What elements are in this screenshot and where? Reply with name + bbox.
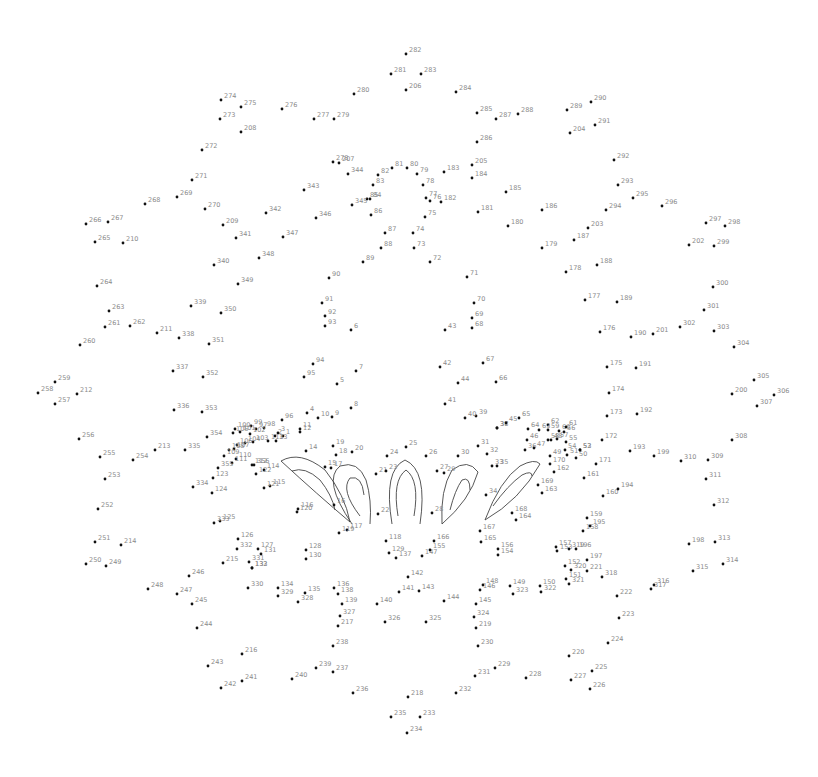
dot-202: 202 [688,237,705,246]
dot-336: 336 [173,402,190,411]
dot-marker [661,205,664,208]
dot-number-label: 198 [692,536,704,544]
dot-number-label: 9 [335,409,339,417]
dot-294: 294 [605,202,622,211]
dot-number-label: 289 [570,102,582,110]
dot-marker [384,621,387,624]
dot-marker [586,517,589,520]
dot-296: 296 [661,198,678,207]
dot-number-label: 186 [545,202,557,210]
dot-marker [407,576,410,579]
dot-283: 283 [420,66,437,75]
dot-34: 34 [485,487,498,496]
dot-marker [617,488,620,491]
dot-marker [431,512,434,515]
dot-288: 288 [517,106,534,115]
dot-227: 227 [570,672,587,681]
dot-54: 54 [564,442,577,451]
dot-number-label: 238 [336,638,348,646]
dot-number-label: 243 [211,658,223,666]
dot-number-label: 73 [417,240,425,248]
dot-marker [305,450,308,453]
dot-marker [473,616,476,619]
dot-marker [96,285,99,288]
dot-289: 289 [566,102,583,111]
dot-113: 113 [267,433,284,442]
dot-number-label: 69 [475,310,483,318]
dot-number-label: 217 [341,618,353,626]
dot-number-label: 273 [223,111,235,119]
dot-190: 190 [630,329,647,338]
dot-number-label: 195 [593,518,605,526]
dot-marker [475,627,478,630]
dot-number-label: 77 [429,190,437,198]
dot-number-label: 323 [516,586,528,594]
dot-marker [105,565,108,568]
dot-77: 77 [425,190,438,199]
dot-276: 276 [281,101,298,110]
dot-295: 295 [632,190,649,199]
dot-marker [324,315,327,318]
dot-number-label: 208 [244,124,256,132]
dot-number-label: 301 [707,302,719,310]
dot-marker [444,329,447,332]
dot-number-label: 171 [599,456,611,464]
dot-74: 74 [412,225,425,234]
dot-marker [341,603,344,606]
dot-208: 208 [240,124,257,133]
dot-marker [241,653,244,656]
dot-marker [429,261,432,264]
dot-291: 291 [594,117,611,126]
dot-marker [586,559,589,562]
dot-marker [494,667,497,670]
dot-140: 140 [376,596,393,605]
dot-number-label: 241 [245,673,257,681]
dot-marker [306,412,309,415]
dot-number-label: 142 [411,569,423,577]
dot-number-label: 353 [205,404,217,412]
dot-marker [419,716,422,719]
dot-marker [712,286,715,289]
dot-marker [277,595,280,598]
dot-number-label: 4 [310,405,314,413]
dot-237: 237 [332,664,349,673]
dot-marker [505,422,508,425]
dot-marker [332,645,335,648]
dot-marker [213,522,216,525]
dot-marker [388,552,391,555]
dot-marker [122,242,125,245]
dot-marker [222,562,225,565]
dot-70: 70 [473,295,486,304]
dot-marker [617,184,620,187]
dot-number-label: 261 [108,319,120,327]
dot-to-dot-canvas: 1234567891011121314151617181920212223242… [0,0,818,777]
dot-number-label: 124 [215,485,227,493]
dot-marker [281,419,284,422]
dot-number-label: 218 [411,689,423,697]
dot-83: 83 [372,177,385,186]
dot-marker [433,540,436,543]
dot-number-label: 191 [639,360,651,368]
dot-number-label: 178 [569,264,581,272]
dot-marker [79,344,82,347]
dot-marker [156,332,159,335]
dot-marker [235,237,238,240]
dot-number-label: 95 [307,369,315,377]
dot-number-label: 222 [620,588,632,596]
dot-31: 31 [477,438,490,447]
dot-162: 162 [553,464,570,473]
dot-327: 327 [339,608,356,617]
dot-number-label: 244 [200,620,212,628]
dot-number-label: 216 [245,646,257,654]
dot-206: 206 [405,82,422,91]
dot-marker [251,567,254,570]
dot-number-label: 72 [433,254,441,262]
dot-number-label: 309 [711,452,723,460]
dot-number-label: 16 [337,497,345,505]
dot-309: 309 [707,452,724,461]
dot-266: 266 [85,216,102,225]
dot-214: 214 [120,537,137,546]
dot-230: 230 [477,638,494,647]
dot-marker [569,132,572,135]
dot-marker [37,392,40,395]
